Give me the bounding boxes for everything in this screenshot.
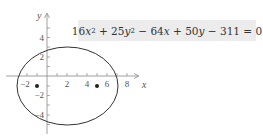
eq-coef: 311 xyxy=(220,25,240,37)
eq-equals: = 0 xyxy=(240,25,262,37)
equation-label: 16x2 + 25y2 − 64x + 50y − 311 = 0 xyxy=(78,20,256,41)
y-axis-label: y xyxy=(36,10,42,21)
eq-coef: 25 xyxy=(111,25,124,37)
eq-coef: 64 xyxy=(150,25,163,37)
eq-coef: 16 xyxy=(72,25,85,37)
x-tick-label: 6 xyxy=(105,79,110,89)
eq-coef: 50 xyxy=(185,25,198,37)
focus-point-left xyxy=(35,84,39,88)
x-axis-label: x xyxy=(141,79,147,90)
eq-op: − xyxy=(135,25,150,37)
x-tick-label: 8 xyxy=(125,79,130,89)
x-tick-label: −2 xyxy=(20,79,30,89)
eq-op: − xyxy=(204,25,219,37)
y-tick-label: 4 xyxy=(40,33,45,43)
x-tick-label: 4 xyxy=(85,79,90,89)
x-tick-label: 2 xyxy=(65,79,70,89)
y-tick-label: −2 xyxy=(34,90,44,100)
eq-op: + xyxy=(96,25,111,37)
focus-point-right xyxy=(95,84,99,88)
x-ticks xyxy=(27,73,127,76)
eq-op: + xyxy=(170,25,185,37)
